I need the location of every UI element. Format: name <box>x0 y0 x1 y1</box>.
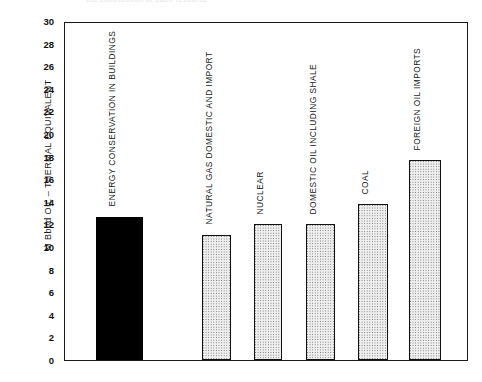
bar <box>96 217 143 361</box>
bar-label: ENERGY CONSERVATION IN BUILDINGS <box>107 31 115 207</box>
y-tick-label: 4 <box>22 311 54 321</box>
bar-label: COAL <box>361 169 369 194</box>
plot-area: ENERGY CONSERVATION IN BUILDINGSNATURAL … <box>64 22 468 361</box>
y-tick-label: 20 <box>22 130 54 140</box>
bar <box>306 224 335 360</box>
bar-label: NUCLEAR <box>256 171 264 214</box>
y-tick-label: 6 <box>22 288 54 298</box>
y-tick-label: 12 <box>22 221 54 231</box>
y-tick-label: 8 <box>22 266 54 276</box>
y-tick-label: 2 <box>22 334 54 344</box>
y-tick-label: 18 <box>22 153 54 163</box>
bar <box>202 235 231 360</box>
y-tick-label: 0 <box>22 356 54 366</box>
bar <box>358 204 388 360</box>
top-caption: the contribution of each resource <box>86 0 386 6</box>
bar-label: DOMESTIC OIL INCLUDING SHALE <box>308 64 316 215</box>
bar-label: FOREIGN OIL IMPORTS <box>413 47 421 150</box>
y-tick-label: 28 <box>22 40 54 50</box>
bar <box>254 224 282 360</box>
y-tick-label: 26 <box>22 62 54 72</box>
y-tick-label: 14 <box>22 198 54 208</box>
bar <box>409 160 441 360</box>
y-tick-label: 16 <box>22 175 54 185</box>
y-tick-label: 30 <box>22 17 54 27</box>
bar-label: NATURAL GAS DOMESTIC AND IMPORT <box>204 52 212 225</box>
y-tick-label: 10 <box>22 243 54 253</box>
y-tick-label: 22 <box>22 108 54 118</box>
y-tick-label: 24 <box>22 85 54 95</box>
